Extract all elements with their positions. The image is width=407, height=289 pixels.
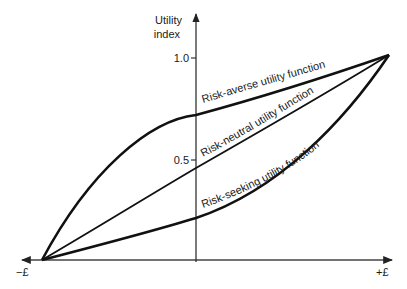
x-tick-label-right: +£: [376, 266, 389, 278]
y-axis-label-line1: Utility: [155, 14, 182, 26]
y-tick-label-1: 1.0: [174, 52, 189, 64]
y-axis-label-line2: index: [154, 28, 181, 40]
risk-neutral-curve: [42, 55, 389, 260]
utility-chart: Utility index 1.0 0.5 −£ +£ Risk-averse …: [0, 0, 407, 289]
x-tick-label-left: −£: [16, 266, 29, 278]
y-tick-label-05: 0.5: [174, 154, 189, 166]
